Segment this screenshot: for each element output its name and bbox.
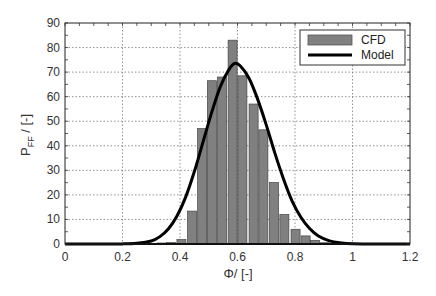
y-tick-label: 90 — [47, 16, 61, 30]
cfd-bar — [249, 104, 258, 244]
y-label-suffix: / [-] — [18, 114, 33, 136]
y-tick-label: 10 — [47, 212, 61, 226]
x-tick-label: 1.2 — [402, 250, 419, 264]
cfd-bar — [270, 183, 279, 244]
x-tick-label: 1 — [349, 250, 356, 264]
y-tick-label: 60 — [47, 90, 61, 104]
x-tick-labels: 00.20.40.60.811.2 — [62, 250, 419, 264]
cfd-bar — [217, 77, 226, 244]
y-tick-label: 20 — [47, 188, 61, 202]
legend-cfd-swatch — [308, 35, 352, 45]
svg-text:PFF / [-]: PFF / [-] — [18, 114, 36, 156]
x-axis-label: Φ/ [-] — [223, 266, 252, 281]
cfd-bar — [301, 236, 310, 244]
y-label-main: P — [18, 147, 33, 156]
legend: CFD Model — [300, 30, 405, 65]
legend-cfd-label: CFD — [361, 33, 386, 47]
x-tick-label: 0.2 — [114, 250, 131, 264]
x-tick-label: 0 — [62, 250, 69, 264]
histogram-chart: 00.20.40.60.811.2 0102030405060708090 Φ/… — [0, 0, 436, 296]
x-tick-label: 0.4 — [172, 250, 189, 264]
y-tick-label: 40 — [47, 139, 61, 153]
cfd-bar — [280, 215, 289, 244]
y-tick-label: 0 — [53, 237, 60, 251]
cfd-bar — [188, 211, 197, 244]
y-tick-label: 80 — [47, 41, 61, 55]
y-tick-label: 70 — [47, 65, 61, 79]
y-tick-labels: 0102030405060708090 — [47, 16, 61, 251]
legend-model-label: Model — [361, 48, 394, 62]
cfd-bar — [259, 130, 268, 244]
x-tick-label: 0.6 — [229, 250, 246, 264]
x-tick-label: 0.8 — [287, 250, 304, 264]
y-tick-label: 30 — [47, 163, 61, 177]
y-label-sub: FF — [26, 136, 36, 147]
y-axis-label: PFF / [-] — [18, 114, 36, 156]
y-tick-label: 50 — [47, 114, 61, 128]
cfd-bar — [291, 229, 300, 244]
cfd-bar — [238, 76, 247, 244]
